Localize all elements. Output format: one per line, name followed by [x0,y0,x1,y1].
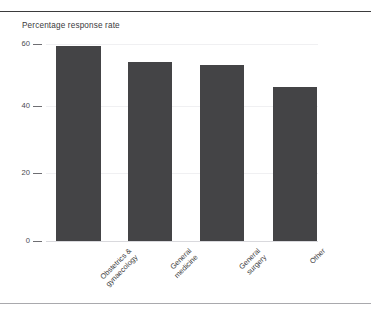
y-tick-label-0: 0 [8,237,30,245]
y-tick-label-20: 20 [8,169,30,177]
y-tick-mark-60 [33,44,42,45]
x-tick-label-general-surgery: General surgery [238,247,269,278]
y-tick-label-40: 40 [8,102,30,110]
x-tick-label-general-medicine: General medicine [167,247,200,280]
gridline-60 [46,44,318,45]
y-tick-label-60: 60 [8,40,30,48]
figure-container: Percentage response rate 60 40 20 0 Obst… [0,0,371,312]
plot-area: 60 40 20 0 Obstetrics & gynaecology Gene… [0,0,371,312]
bottom-divider-rule [0,303,371,304]
bar-obstetrics-gynaecology[interactable] [56,46,101,241]
x-tick-label-other: Other [308,247,327,266]
x-tick-label-obstetrics-gynaecology: Obstetrics & gynaecology [98,247,140,289]
bar-general-surgery[interactable] [200,65,244,241]
bar-other[interactable] [273,87,317,241]
bar-general-medicine[interactable] [128,62,172,241]
y-tick-mark-40 [33,106,42,107]
x-axis-baseline [46,241,318,242]
y-tick-mark-0 [33,241,42,242]
y-tick-mark-20 [33,173,42,174]
